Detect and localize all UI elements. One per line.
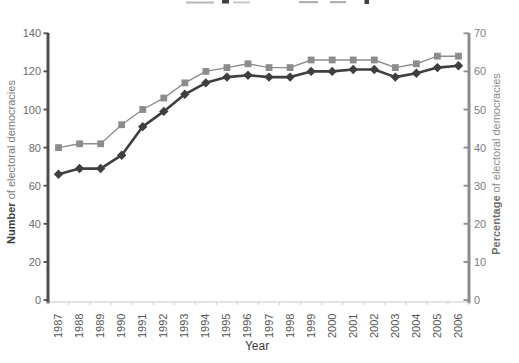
year-label: 1994: [199, 314, 211, 338]
data-point-diamond: [243, 71, 252, 80]
right-tick-label: 0: [474, 294, 480, 306]
data-point-diamond: [391, 72, 400, 81]
year-label: 2001: [347, 314, 359, 338]
year-label: 2005: [431, 314, 443, 338]
year-label: 1990: [115, 314, 127, 338]
data-point-square: [329, 57, 336, 64]
left-axis-title: Number of electoral democracies: [5, 80, 17, 244]
year-label: 1987: [52, 314, 64, 338]
year-label: 1992: [157, 314, 169, 338]
year-label: 1999: [305, 314, 317, 338]
right-tick-label: 30: [474, 180, 486, 192]
data-point-diamond: [201, 78, 210, 87]
data-point-square: [308, 57, 315, 64]
data-point-diamond: [433, 63, 442, 72]
electoral-democracies-chart: 020406080100120140 010203040506070 19871…: [0, 0, 519, 363]
data-point-square: [413, 60, 420, 67]
data-point-diamond: [75, 164, 84, 173]
data-point-diamond: [54, 170, 63, 179]
left-tick-label: 100: [23, 104, 41, 116]
x-axis-title: Year: [245, 339, 269, 353]
left-tick-label: 20: [29, 256, 41, 268]
left-tick-label: 80: [29, 142, 41, 154]
data-point-diamond: [285, 72, 294, 81]
data-point-square: [118, 121, 125, 128]
year-label: 1993: [178, 314, 190, 338]
right-tick-label: 60: [474, 65, 486, 77]
year-label: 2006: [452, 314, 464, 338]
data-point-square: [160, 95, 167, 102]
left-axis-tick-labels: 020406080100120140: [23, 27, 41, 306]
x-axis-ticks: [48, 302, 469, 305]
left-tick-label: 140: [23, 27, 41, 39]
data-point-diamond: [370, 65, 379, 74]
diamond-series-line: [59, 66, 459, 175]
year-label: 1991: [136, 314, 148, 338]
data-point-square: [350, 57, 357, 64]
data-point-diamond: [454, 61, 463, 70]
year-label: 1989: [94, 314, 106, 338]
data-point-diamond: [327, 67, 336, 76]
year-label: 1997: [263, 314, 275, 338]
right-axis-title: Percentage of electoral democracies: [490, 73, 502, 255]
right-tick-label: 50: [474, 104, 486, 116]
data-point-diamond: [264, 72, 273, 81]
data-point-square: [371, 57, 378, 64]
left-tick-label: 60: [29, 180, 41, 192]
data-point-square: [76, 140, 83, 147]
x-axis-year-labels: 1987198819891990199119921993199419951996…: [52, 314, 464, 338]
data-point-square: [434, 53, 441, 60]
percentage-series: [55, 53, 462, 151]
left-tick-label: 120: [23, 65, 41, 77]
data-point-square: [392, 64, 399, 71]
year-label: 2000: [326, 314, 338, 338]
data-point-square: [202, 68, 209, 75]
data-point-square: [181, 79, 188, 86]
data-point-diamond: [222, 72, 231, 81]
clipped-title-fragments: [186, 0, 369, 4]
data-point-diamond: [412, 69, 421, 78]
year-label: 2003: [389, 314, 401, 338]
data-point-square: [287, 64, 294, 71]
year-label: 1988: [73, 314, 85, 338]
year-label: 1998: [284, 314, 296, 338]
data-point-square: [455, 53, 462, 60]
data-point-square: [245, 60, 252, 67]
number-series: [54, 61, 463, 179]
right-tick-label: 40: [474, 142, 486, 154]
data-point-square: [224, 64, 231, 71]
chart-screenshot: 020406080100120140 010203040506070 19871…: [0, 0, 519, 363]
year-label: 1996: [241, 314, 253, 338]
left-tick-label: 40: [29, 218, 41, 230]
right-axis-tick-labels: 010203040506070: [474, 27, 486, 306]
data-point-square: [55, 144, 62, 151]
data-point-square: [139, 106, 146, 113]
year-label: 2004: [410, 314, 422, 338]
data-point-square: [97, 140, 104, 147]
right-tick-label: 10: [474, 256, 486, 268]
right-tick-label: 70: [474, 27, 486, 39]
year-label: 2002: [368, 314, 380, 338]
data-point-diamond: [306, 67, 315, 76]
data-point-diamond: [349, 65, 358, 74]
year-label: 1995: [220, 314, 232, 338]
right-tick-label: 20: [474, 218, 486, 230]
left-tick-label: 0: [35, 294, 41, 306]
data-point-square: [266, 64, 273, 71]
